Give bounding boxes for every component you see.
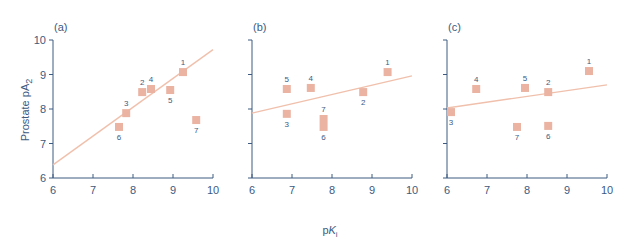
data-point-marker: [585, 67, 593, 75]
x-tick-label: 6: [444, 184, 450, 196]
x-tick-label: 7: [484, 184, 490, 196]
data-point-label: 6: [546, 132, 551, 141]
panel-label: (b): [253, 21, 266, 33]
x-tick-label: 8: [329, 184, 335, 196]
panel-c: 678910(c)1234567: [443, 21, 613, 196]
panel-label: (c): [448, 21, 461, 33]
y-tick-label: 9: [40, 69, 46, 81]
x-tick-label: 9: [564, 184, 570, 196]
data-point-label: 3: [124, 99, 129, 108]
data-point-label: 7: [194, 126, 199, 135]
data-point-label: 2: [140, 78, 145, 87]
data-point-marker: [283, 110, 291, 118]
y-tick-label: 8: [40, 103, 46, 115]
data-point-marker: [447, 108, 455, 116]
data-point-label: 3: [285, 120, 290, 129]
data-point-label: 5: [523, 74, 528, 83]
x-tick-label: 7: [90, 184, 96, 196]
data-point-marker: [544, 88, 552, 96]
data-point-label: 1: [181, 58, 186, 67]
x-tick-label: 10: [207, 184, 219, 196]
data-point-marker: [283, 85, 291, 93]
data-point-label: 2: [546, 78, 551, 87]
data-point-marker: [472, 85, 480, 93]
data-point-marker: [122, 109, 130, 117]
data-point-label: 2: [361, 98, 366, 107]
figure: 678910678910(a)1234567678910(b)123456767…: [0, 0, 630, 242]
data-point-label: 4: [149, 75, 154, 84]
data-point-label: 7: [321, 105, 326, 114]
x-tick-label: 6: [249, 184, 255, 196]
data-point-marker: [115, 123, 123, 131]
data-point-marker: [384, 68, 392, 76]
data-point-marker: [166, 86, 174, 94]
regression-line: [53, 50, 213, 165]
data-point-marker: [359, 88, 367, 96]
regression-line: [252, 76, 412, 113]
data-point-label: 5: [285, 75, 290, 84]
x-tick-label: 8: [524, 184, 530, 196]
panel-a: 678910678910(a)1234567: [34, 21, 219, 196]
data-point-marker: [138, 88, 146, 96]
y-tick-label: 10: [34, 34, 46, 46]
y-tick-label: 6: [40, 172, 46, 184]
data-point-marker: [544, 122, 552, 130]
data-point-marker: [192, 116, 200, 124]
y-axis-label: Prostate pA2: [19, 79, 34, 142]
data-point-marker: [179, 68, 187, 76]
data-point-marker: [307, 84, 315, 92]
data-point-label: 1: [587, 57, 592, 66]
x-tick-label: 8: [130, 184, 136, 196]
x-tick-label: 6: [50, 184, 56, 196]
panels: 678910678910(a)1234567678910(b)123456767…: [34, 21, 613, 196]
panel-b: 678910(b)1234567: [248, 21, 418, 196]
x-tick-label: 9: [170, 184, 176, 196]
data-point-label: 5: [168, 96, 173, 105]
x-tick-label: 10: [406, 184, 418, 196]
data-point-marker: [521, 84, 529, 92]
x-axis-label: pKi: [322, 224, 337, 239]
x-tick-label: 7: [289, 184, 295, 196]
data-point-label: 1: [385, 58, 390, 67]
y-tick-label: 7: [40, 138, 46, 150]
data-point-marker: [320, 123, 328, 131]
x-tick-label: 10: [601, 184, 613, 196]
data-point-marker: [147, 85, 155, 93]
data-point-label: 4: [309, 74, 314, 83]
x-tick-label: 9: [369, 184, 375, 196]
data-point-marker: [320, 115, 328, 123]
data-point-label: 4: [474, 75, 479, 84]
data-point-label: 6: [321, 133, 326, 142]
data-point-marker: [513, 123, 521, 131]
data-point-label: 3: [449, 118, 454, 127]
panel-label: (a): [54, 21, 67, 33]
data-point-label: 6: [117, 133, 122, 142]
data-point-label: 7: [515, 133, 520, 142]
